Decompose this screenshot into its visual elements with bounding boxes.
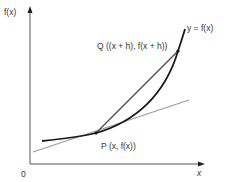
point-q: [176, 49, 179, 52]
y-axis-arrow-icon: [28, 6, 33, 13]
point-q-label: Q ((x + h), f(x + h)): [97, 41, 168, 51]
chord-pq: [96, 51, 178, 133]
curve-label: y = f(x): [187, 23, 213, 33]
y-axis-label: f(x): [4, 7, 16, 17]
x-axis-arrow-icon: [198, 162, 205, 167]
point-p-label: P (x, f(x)): [101, 141, 136, 151]
point-p: [94, 131, 97, 134]
diagram-canvas: f(x) x 0 y = f(x) Q ((x + h), f(x + h)) …: [0, 0, 227, 182]
x-axis-label: x: [196, 168, 202, 178]
origin-label: 0: [21, 169, 26, 179]
